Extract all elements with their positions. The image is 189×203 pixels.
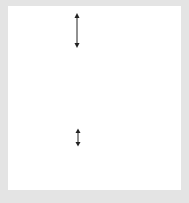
waves-graphic <box>0 0 189 203</box>
small-amplitude-arrow-icon <box>76 129 81 147</box>
large-amplitude-arrow-icon <box>75 13 80 48</box>
